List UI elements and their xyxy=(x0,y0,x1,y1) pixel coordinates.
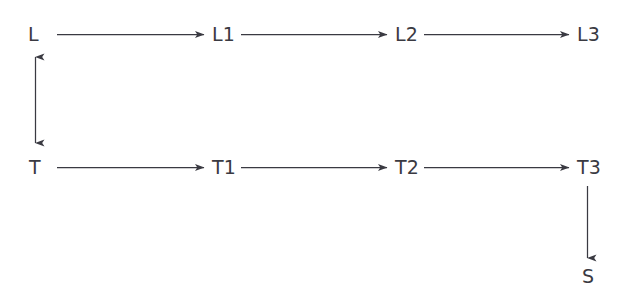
node-label-s: S xyxy=(582,267,594,286)
node-label-t: T xyxy=(29,158,41,177)
node-label-t3: T3 xyxy=(577,158,601,177)
diagram-canvas: L L1 L2 L3 T T1 T2 T3 S xyxy=(0,0,627,308)
node-label-l3: L3 xyxy=(577,25,600,44)
node-label-l2: L2 xyxy=(395,25,418,44)
node-label-t2: T2 xyxy=(395,158,419,177)
node-label-t1: T1 xyxy=(212,158,236,177)
diagram-edges-layer xyxy=(0,0,627,308)
node-label-l1: L1 xyxy=(212,25,235,44)
node-label-l: L xyxy=(28,25,39,44)
